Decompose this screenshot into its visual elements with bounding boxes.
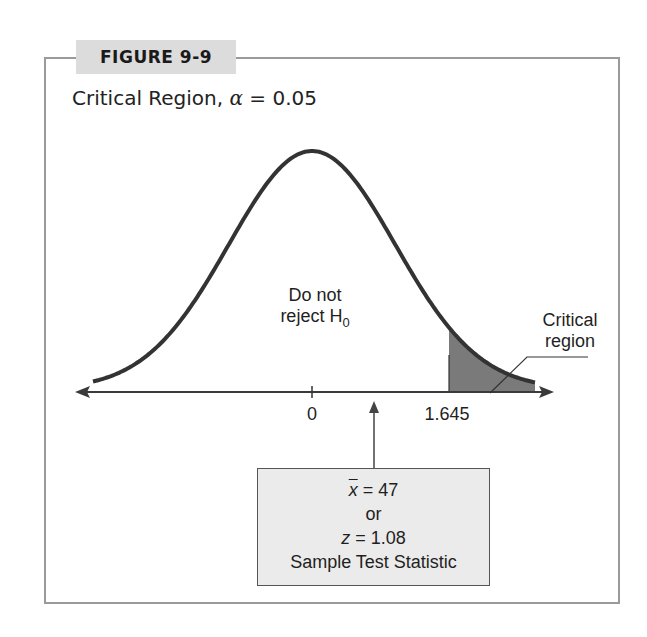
z-line: z = 1.08	[258, 526, 489, 550]
xbar-value: = 47	[358, 480, 399, 500]
critical-line2: region	[530, 331, 610, 352]
z-value: = 1.08	[350, 528, 406, 548]
stat-caption: Sample Test Statistic	[258, 550, 489, 574]
critical-line1: Critical	[530, 310, 610, 331]
reject-text: reject H	[280, 306, 342, 326]
acceptance-line2: reject H0	[245, 306, 385, 333]
xbar-symbol: x	[349, 480, 358, 500]
acceptance-region-label: Do not reject H0	[245, 285, 385, 333]
or-text: or	[258, 502, 489, 526]
critical-region-label: Critical region	[530, 310, 610, 352]
xbar-line: x = 47	[258, 478, 489, 502]
critical-region-shade	[449, 328, 535, 393]
acceptance-line1: Do not	[245, 285, 385, 306]
test-statistic-box: x = 47 or z = 1.08 Sample Test Statistic	[257, 468, 490, 586]
up-arrow-icon	[369, 401, 379, 413]
h0-subscript: 0	[342, 315, 349, 330]
normal-curve	[93, 151, 535, 382]
tick-label-zero: 0	[292, 404, 332, 425]
z-symbol: z	[341, 528, 350, 548]
tick-label-critical: 1.645	[412, 404, 482, 425]
